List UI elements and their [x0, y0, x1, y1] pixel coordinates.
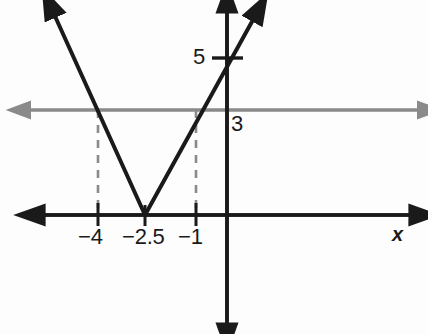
x-tick-label-neg4: −4: [78, 226, 103, 248]
x-axis-label: x: [392, 224, 403, 244]
horizontal-line-label-3: 3: [231, 113, 243, 135]
graph-figure: −4 −2.5 −1 5 3 x: [0, 0, 428, 334]
x-tick-label-neg25: −2.5: [122, 226, 165, 248]
curve-left-branch: [54, 14, 145, 215]
graph-canvas: [0, 0, 428, 334]
y-tick-label-5: 5: [193, 46, 205, 68]
x-tick-label-neg1: −1: [178, 226, 203, 248]
